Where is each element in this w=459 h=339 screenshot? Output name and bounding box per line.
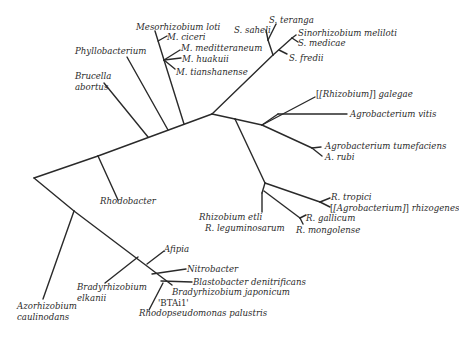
- branch-r-mongolense: [300, 218, 303, 224]
- label-rhizobium-etli: Rhizobium etli: [199, 212, 262, 222]
- label-r-tropici: R. tropici: [331, 192, 371, 202]
- branch-afipia: [147, 251, 164, 264]
- label-bradyrhizobium-elkanii-2: elkanii: [77, 293, 106, 303]
- label-m-tianshanense: M. tianshanense: [176, 67, 248, 77]
- label-afipia: Afipia: [164, 244, 189, 254]
- branch-r-gallicum-stem: [264, 191, 300, 218]
- branch-agro-tumefaciens: [312, 147, 321, 148]
- label-sinorhizobium-meliloti: Sinorhizobium meliloti: [298, 28, 397, 38]
- branch-central: [212, 114, 235, 119]
- branch-blastobacter: [161, 281, 192, 282]
- label-m-mediterraneum: M. meditteraneum: [181, 43, 262, 53]
- branch-rhodobacter: [98, 156, 118, 200]
- label-nitrobacter: Nitrobacter: [187, 264, 238, 274]
- branch-brucella: [104, 83, 148, 137]
- branch-trunk-lower: [34, 178, 74, 211]
- branch-mesorhizobium-stem: [155, 31, 164, 60]
- branch-trunk-upper: [98, 114, 212, 156]
- label-btai1: 'BTAi1': [158, 298, 189, 308]
- label-agrobacterium-rhizogenes: [[Agrobacterium]] rhizogenes: [330, 203, 459, 213]
- branch-a-rubi: [312, 148, 322, 156]
- branch-azorhizobium: [43, 211, 74, 299]
- branch-central-2: [235, 119, 262, 125]
- branch-r-tropici: [320, 198, 330, 202]
- branch-s-fredii: [279, 50, 287, 54]
- label-rhizogenes-species: rhizogenes: [409, 203, 459, 213]
- label-blastobacter: Blastobacter denitrificans: [193, 277, 306, 287]
- label-rhodobacter: Rhodobacter: [100, 196, 156, 206]
- label-agrobacterium-tumefaciens: Agrobacterium tumefaciens: [325, 141, 446, 151]
- label-agrobacterium-vitis: Agrobacterium vitis: [350, 109, 436, 119]
- label-s-saheli: S. saheli: [234, 25, 271, 35]
- branch-s-saheli-teranga: [268, 40, 273, 55]
- label-phyllobacterium: Phyllobacterium: [75, 46, 146, 56]
- branch-agro-vitis-stem: [262, 114, 278, 125]
- label-r-mongolense: R. mongolense: [296, 225, 360, 235]
- label-bradyrhizobium-elkanii-1: Bradyrhizobium: [77, 282, 147, 292]
- branch-trunk-upper: [34, 156, 98, 178]
- label-brucella-1: Brucella: [75, 71, 111, 81]
- label-r-gallicum: R. gallicum: [306, 213, 355, 223]
- label-s-fredii: S. fredii: [289, 53, 323, 63]
- label-azorhizobium-1: Azorhizobium: [17, 301, 77, 311]
- branch-m-ciceri: [158, 36, 167, 41]
- label-galegae-bracket: [[Rhizobium]]: [316, 89, 376, 99]
- label-azorhizobium-2: caulinodans: [17, 312, 69, 322]
- label-m-ciceri: M. ciceri: [167, 32, 206, 42]
- label-rhizobium-galegae: [[Rhizobium]] galegae: [316, 89, 413, 99]
- branch-rhizogenes: [320, 202, 330, 207]
- label-rhodopseudomonas: Rhodopseudomonas palustris: [139, 308, 267, 318]
- label-r-leguminosarum: R. leguminosarum: [205, 223, 285, 233]
- branch-galegae: [262, 97, 315, 125]
- label-galegae-species: galegae: [376, 89, 413, 99]
- branch-r-tropici-stem: [265, 183, 320, 202]
- branch-s-meliloti: [292, 35, 296, 38]
- branch-nitrobacter: [152, 269, 186, 274]
- label-rhizogenes-bracket: [[Agrobacterium]]: [330, 203, 409, 213]
- label-s-teranga: S. teranga: [269, 15, 314, 25]
- label-m-huakuii: M. huakuii: [182, 54, 229, 64]
- label-brucella-2: abortus: [75, 82, 108, 92]
- branch-elkanii-stem: [105, 257, 138, 283]
- label-bradyrhizobium-japonicum: Bradyrhizobium japonicum: [172, 287, 290, 297]
- label-s-medicae: S. medicae: [298, 38, 346, 48]
- branch-rhizobium-stem: [235, 119, 265, 183]
- label-mesorhizobium-loti: Mesorhizobium loti: [136, 22, 220, 32]
- label-a-rubi: A. rubi: [325, 152, 355, 162]
- branch-agro-tumefaciens-stem: [262, 125, 312, 148]
